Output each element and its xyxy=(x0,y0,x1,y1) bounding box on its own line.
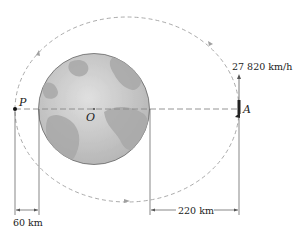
velocity-label: 27 820 km/h xyxy=(232,61,292,72)
center-point xyxy=(93,108,95,110)
apogee-altitude-label: 220 km xyxy=(178,205,214,216)
perigee-altitude-label: 60 km xyxy=(13,217,43,228)
center-label: O xyxy=(86,111,95,124)
velocity-arrow xyxy=(237,74,241,100)
orbit-diagram: O P A 27 820 km/h 60 km 220 km xyxy=(0,0,305,238)
perigee-point xyxy=(13,107,17,111)
perigee-altitude-dimension xyxy=(16,209,38,212)
perigee-label: P xyxy=(18,96,27,109)
apogee-label: A xyxy=(242,103,251,116)
